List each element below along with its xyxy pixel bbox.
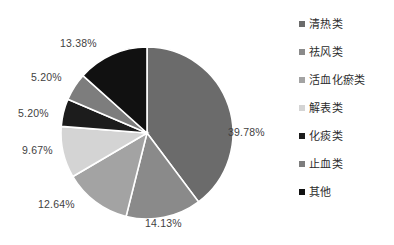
- legend-swatch-icon: [299, 161, 305, 167]
- pie-plot-area: 39.78% 14.13% 12.64% 9.67% 5.20% 5.20% 1…: [0, 0, 290, 245]
- slice-label-huoxuehuayulei: 12.64%: [38, 199, 75, 210]
- slice-label-qufenglei: 14.13%: [145, 218, 182, 229]
- legend-item-jiebiaolei[interactable]: 解表类: [299, 94, 394, 122]
- legend-item-label: 化痰类: [309, 122, 343, 150]
- legend-item-huoxuehuayulei[interactable]: 活血化瘀类: [299, 66, 394, 94]
- legend-item-label: 祛风类: [309, 38, 343, 66]
- legend-item-qufenglei[interactable]: 祛风类: [299, 38, 394, 66]
- legend-item-label: 止血类: [309, 150, 343, 178]
- legend-item-huatanlei[interactable]: 化痰类: [299, 122, 394, 150]
- legend-item-qita[interactable]: 其他: [299, 178, 394, 206]
- legend-swatch-icon: [299, 21, 305, 27]
- slice-label-qita: 13.38%: [60, 38, 97, 49]
- legend-item-qingrelei[interactable]: 清热类: [299, 10, 394, 38]
- legend-swatch-icon: [299, 133, 305, 139]
- pie-slice-group: [61, 47, 233, 219]
- legend-swatch-icon: [299, 77, 305, 83]
- legend-swatch-icon: [299, 105, 305, 111]
- pie-chart: 39.78% 14.13% 12.64% 9.67% 5.20% 5.20% 1…: [0, 0, 394, 245]
- legend-item-label: 清热类: [309, 10, 343, 38]
- legend-item-label: 解表类: [309, 94, 343, 122]
- slice-label-huatanlei: 5.20%: [18, 108, 49, 119]
- legend-swatch-icon: [299, 49, 305, 55]
- legend-item-label: 活血化瘀类: [309, 66, 366, 94]
- slice-label-qingrelei: 39.78%: [228, 127, 265, 138]
- legend-item-zhixuelei[interactable]: 止血类: [299, 150, 394, 178]
- slice-label-jiebiaolei: 9.67%: [22, 145, 53, 156]
- slice-label-zhixuelei: 5.20%: [31, 72, 62, 83]
- chart-legend: 清热类祛风类活血化瘀类解表类化痰类止血类其他: [299, 10, 394, 235]
- legend-swatch-icon: [299, 189, 305, 195]
- legend-item-label: 其他: [309, 178, 332, 206]
